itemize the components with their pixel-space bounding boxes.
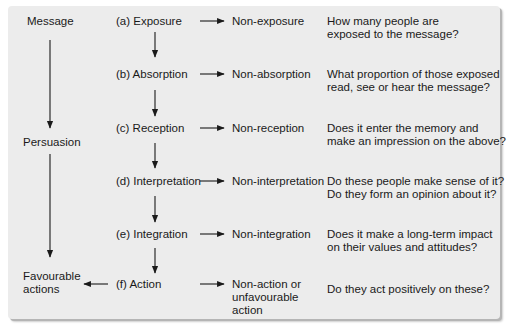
negative-action-3: action	[232, 304, 263, 317]
question-interpretation-2: Do they form an opinion about it?	[327, 188, 496, 201]
label-favourable-actions-2: actions	[23, 283, 59, 296]
stage-absorption: (b) Absorption	[116, 68, 188, 81]
negative-exposure: Non-exposure	[232, 15, 304, 28]
negative-action-1: Non-action or	[232, 278, 301, 291]
stage-reception: (c) Reception	[116, 122, 184, 135]
question-exposure-1: How many people are	[327, 15, 439, 28]
stage-action: (f) Action	[116, 278, 161, 291]
negative-interpretation: Non-interpretation	[232, 175, 324, 188]
negative-reception: Non-reception	[232, 122, 304, 135]
negative-integration: Non-integration	[232, 228, 311, 241]
stage-integration: (e) Integration	[116, 228, 188, 241]
question-absorption-1: What proportion of those exposed	[327, 68, 500, 81]
question-action-1: Do they act positively on these?	[327, 283, 489, 296]
stage-interpretation: (d) Interpretation	[116, 175, 201, 188]
question-interpretation-1: Do these people make sense of it?	[327, 175, 504, 188]
label-favourable-actions-1: Favourable	[23, 270, 81, 283]
question-exposure-2: exposed to the message?	[327, 28, 459, 41]
stage-exposure: (a) Exposure	[116, 15, 182, 28]
question-integration-2: on their values and attitudes?	[327, 241, 477, 254]
question-integration-1: Does it make a long-term impact	[327, 228, 493, 241]
question-reception-1: Does it enter the memory and	[327, 122, 479, 135]
question-absorption-2: read, see or hear the message?	[327, 81, 490, 94]
negative-absorption: Non-absorption	[232, 68, 311, 81]
question-reception-2: make an impression on the above?	[327, 135, 506, 148]
label-persuasion: Persuasion	[23, 136, 81, 149]
negative-action-2: unfavourable	[232, 291, 299, 304]
label-message: Message	[27, 15, 74, 28]
